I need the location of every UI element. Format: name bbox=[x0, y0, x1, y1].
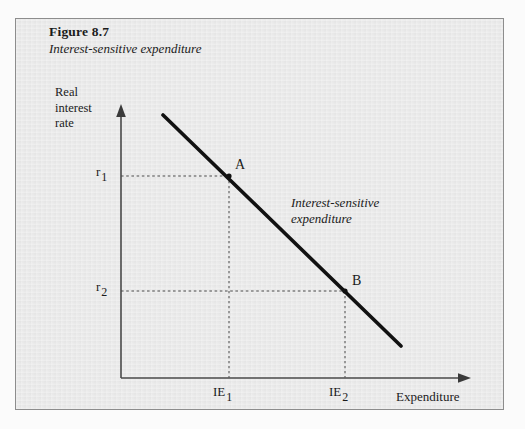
x-tick-ie1-base: IE bbox=[213, 384, 225, 399]
y-tick-r1-subscript: 1 bbox=[101, 170, 107, 184]
interest-sensitive-expenditure-curve bbox=[163, 115, 401, 346]
x-tick-ie2-subscript: 2 bbox=[342, 390, 348, 404]
y-axis-arrow-icon bbox=[116, 104, 126, 117]
x-axis bbox=[121, 373, 471, 383]
curve-annotation: Interest-sensitive expenditure bbox=[291, 195, 379, 227]
y-tick-label-r1: r1 bbox=[96, 164, 106, 180]
data-point-b bbox=[342, 288, 347, 293]
point-label-b: B bbox=[352, 273, 361, 289]
y-tick-r2-base: r bbox=[96, 279, 100, 294]
y-tick-label-r2: r2 bbox=[96, 279, 106, 295]
data-point-a bbox=[226, 173, 231, 178]
plot-canvas bbox=[0, 0, 525, 429]
x-tick-label-ie1: IE1 bbox=[213, 384, 231, 400]
y-tick-r2-subscript: 2 bbox=[101, 285, 107, 299]
y-tick-r1-base: r bbox=[96, 164, 100, 179]
y-axis bbox=[116, 104, 126, 378]
curve-annotation-line-1: Interest-sensitive bbox=[291, 195, 379, 211]
curve-annotation-line-2: expenditure bbox=[291, 211, 379, 227]
x-axis-arrow-icon bbox=[458, 373, 471, 383]
x-tick-ie1-subscript: 1 bbox=[226, 390, 232, 404]
point-label-a: A bbox=[235, 157, 245, 173]
x-axis-label: Expenditure bbox=[396, 389, 460, 405]
figure-root: Figure 8.7 Interest-sensitive expenditur… bbox=[0, 0, 525, 429]
x-tick-ie2-base: IE bbox=[329, 384, 341, 399]
x-tick-label-ie2: IE2 bbox=[329, 384, 347, 400]
